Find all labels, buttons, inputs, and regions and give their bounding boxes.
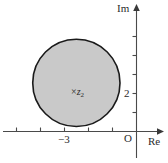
imaginary-axis-arrowhead [133, 4, 140, 11]
origin-label: O [124, 133, 132, 144]
real-axis-arrowhead [157, 128, 164, 135]
axes-and-disk-canvas [0, 0, 168, 163]
disk-center-label: ×z2 [71, 86, 84, 99]
imaginary-axis-label: Im [117, 3, 129, 14]
center-symbol-subscript: 2 [81, 91, 85, 99]
real-tick-label-minus3: −3 [58, 134, 70, 145]
imaginary-tick-label-2: 2 [124, 88, 130, 99]
shaded-disk [33, 39, 120, 126]
real-axis-label: Re [148, 136, 160, 147]
complex-plane-figure: Im Re O −3 2 ×z2 [0, 0, 168, 163]
